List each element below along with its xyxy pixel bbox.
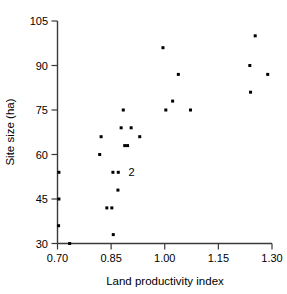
point-count-annotation: 2: [129, 166, 135, 178]
data-point: [171, 100, 174, 103]
data-point: [117, 171, 120, 174]
data-point: [100, 135, 103, 138]
data-point: [98, 153, 101, 156]
x-tick-label: 1.15: [208, 252, 229, 264]
data-point: [248, 64, 251, 67]
y-tick-label: 45: [36, 193, 48, 205]
data-point: [57, 224, 60, 227]
data-point: [189, 109, 192, 112]
x-tick-label: 1.00: [154, 252, 175, 264]
y-axis-ticks: [52, 21, 58, 244]
data-point: [164, 109, 167, 112]
data-point: [249, 91, 252, 94]
plot-canvas: 3045607590105 0.700.851.001.151.30 2 Lan…: [0, 0, 287, 294]
annotations-group: 2: [129, 166, 135, 178]
x-tick-label: 0.70: [47, 252, 68, 264]
y-tick-label: 75: [36, 104, 48, 116]
data-point: [120, 126, 123, 129]
y-tick-label: 105: [30, 15, 48, 27]
x-tick-label: 1.30: [261, 252, 282, 264]
data-point: [57, 171, 60, 174]
data-point: [110, 206, 113, 209]
data-point: [161, 46, 164, 49]
y-axis-title: Site size (ha): [4, 98, 16, 165]
data-point: [68, 242, 71, 245]
data-points-group: [57, 34, 269, 245]
y-tick-label: 90: [36, 60, 48, 72]
data-point: [130, 126, 133, 129]
x-axis-tick-labels: 0.700.851.001.151.30: [47, 252, 283, 264]
x-tick-label: 0.85: [100, 252, 121, 264]
x-axis-ticks: [58, 244, 273, 250]
data-point: [177, 73, 180, 76]
data-point: [116, 189, 119, 192]
y-tick-label: 30: [36, 238, 48, 250]
x-axis-title: Land productivity index: [106, 275, 224, 287]
data-point: [126, 144, 129, 147]
y-axis-tick-labels: 3045607590105: [30, 15, 48, 250]
data-point: [111, 171, 114, 174]
data-point: [105, 206, 108, 209]
axis-group: [57, 21, 272, 244]
data-point: [57, 198, 60, 201]
data-point: [138, 135, 141, 138]
data-point: [112, 233, 115, 236]
scatter-plot-figure: 3045607590105 0.700.851.001.151.30 2 Lan…: [0, 0, 287, 294]
data-point: [122, 109, 125, 112]
y-tick-label: 60: [36, 149, 48, 161]
data-point: [254, 34, 257, 37]
data-point: [123, 144, 126, 147]
data-point: [266, 73, 269, 76]
